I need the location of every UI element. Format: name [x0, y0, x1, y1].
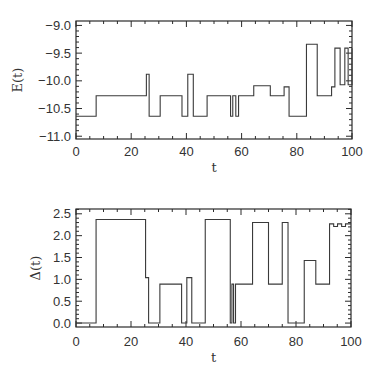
y-tick-label: −11.0 — [39, 129, 71, 144]
figure: 020406080100−9.0−9.5−10.0−10.5−11.0tE(t)… — [0, 0, 381, 379]
plot-frame — [76, 21, 352, 139]
y-tick-label: −9.0 — [45, 18, 71, 33]
y-tick-label: −10.0 — [38, 73, 71, 88]
x-tick-label: 0 — [72, 144, 79, 159]
x-tick-label: 80 — [289, 334, 303, 349]
y-tick-label: 1.5 — [53, 250, 71, 265]
y-axis-label: E(t) — [10, 68, 25, 93]
gap-panel: 0204060801002.52.01.51.00.50.0tΔ(t) — [28, 206, 362, 365]
x-tick-label: 60 — [234, 144, 248, 159]
x-tick-label: 20 — [124, 334, 138, 349]
x-axis-label: t — [211, 160, 217, 175]
x-tick-label: 40 — [179, 144, 193, 159]
series-line — [76, 44, 352, 116]
y-tick-label: 2.5 — [53, 206, 71, 221]
x-tick-label: 20 — [124, 144, 138, 159]
x-tick-label: 100 — [341, 144, 363, 159]
x-tick-label: 80 — [290, 144, 304, 159]
y-tick-label: 2.0 — [53, 228, 71, 243]
y-tick-label: 1.0 — [53, 272, 71, 287]
x-axis-label: t — [211, 350, 217, 365]
series-line — [76, 219, 351, 323]
y-tick-label: 0.5 — [53, 294, 71, 309]
x-tick-label: 60 — [234, 334, 248, 349]
y-axis-label: Δ(t) — [28, 256, 43, 281]
x-tick-label: 40 — [179, 334, 193, 349]
x-tick-label: 0 — [72, 334, 79, 349]
x-tick-label: 100 — [340, 334, 362, 349]
y-tick-label: 0.0 — [53, 316, 71, 331]
energy-panel: 020406080100−9.0−9.5−10.0−10.5−11.0tE(t) — [10, 18, 363, 175]
y-tick-label: −10.5 — [38, 101, 71, 116]
y-tick-label: −9.5 — [45, 46, 71, 61]
plot-frame — [76, 209, 351, 327]
